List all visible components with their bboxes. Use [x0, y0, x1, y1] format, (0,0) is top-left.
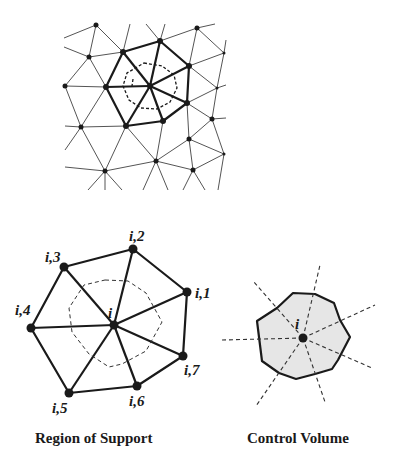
node-i-6 [133, 382, 142, 391]
label-i-2: i,2 [129, 228, 145, 244]
label-i-4: i,4 [15, 302, 31, 318]
node-i-5 [65, 389, 74, 398]
node-i-4 [27, 324, 36, 333]
label-i: i [108, 305, 113, 321]
node-i-7 [179, 352, 188, 361]
label-i-3: i,3 [45, 249, 61, 265]
node-i-1 [183, 288, 192, 297]
control-volume-node-i [299, 334, 308, 343]
label-i-5: i,5 [52, 400, 68, 416]
label-i-6: i,6 [129, 393, 145, 409]
label-i-1: i,1 [195, 285, 210, 301]
node-i-2 [129, 245, 138, 254]
caption-control-volume: Control Volume [247, 430, 349, 446]
node-i-3 [60, 263, 69, 272]
region-of-support: i i,1 i,2 i,3 i,4 i,5 i,6 i,7 Region of … [15, 228, 210, 446]
label-i-7: i,7 [184, 362, 200, 378]
control-volume: i Control Volume [222, 265, 375, 446]
diagram-canvas: i i,1 i,2 i,3 i,4 i,5 i,6 i,7 Region of … [0, 0, 393, 460]
mesh-thin-edges [64, 24, 226, 190]
caption-region-of-support: Region of Support [35, 430, 153, 446]
node-i [110, 321, 119, 330]
